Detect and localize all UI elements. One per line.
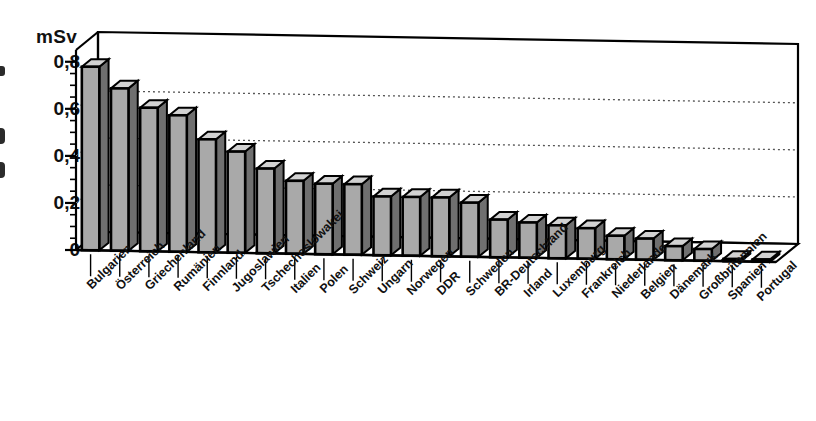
x-axis-tick-labels: BulgarienÖsterreichGriechenlandRumänienF…	[0, 0, 816, 421]
x-axis-tick-label: Schweden	[463, 289, 473, 299]
x-axis-tick-label: BR-Deutschland	[492, 289, 502, 299]
x-axis-tick-label: Bulgarien	[84, 282, 94, 292]
x-axis-tick-label: Rumänien	[171, 284, 181, 294]
x-axis-tick-label: Großbritannien	[696, 293, 706, 303]
x-axis-tick-label: Norwegen	[404, 288, 414, 298]
x-axis-tick-label: Niederlande	[609, 291, 619, 301]
x-axis-tick-label: Luxemburg	[550, 290, 560, 300]
chart-figure: mSv 00,20,40,60,8 BulgarienÖsterreichGri…	[0, 0, 816, 421]
x-axis-tick-label: Ungarn	[375, 287, 385, 297]
x-axis-tick-label: Finnland	[200, 284, 210, 294]
x-axis-tick-label: Schweiz	[346, 287, 356, 297]
x-axis-tick-label: Belgien	[638, 292, 648, 302]
x-axis-tick-label: Irland	[521, 290, 531, 300]
x-axis-tick-label: Griechenland	[142, 283, 152, 293]
x-axis-tick-label: Dänemark	[667, 292, 677, 302]
x-axis-tick-label: Spanien	[725, 293, 735, 303]
x-axis-tick-label: DDR	[434, 288, 444, 298]
x-axis-tick-label: Portugal	[754, 294, 764, 304]
x-axis-tick-label: Italien	[288, 286, 298, 296]
x-axis-tick-label: Jugoslawien	[229, 285, 239, 295]
x-axis-tick-label: Polen	[317, 286, 327, 296]
x-axis-tick-label: Österreich	[113, 283, 123, 293]
x-axis-tick-label: Tschechoslowakei	[259, 285, 269, 295]
x-axis-tick-label: Frankreich	[579, 291, 589, 301]
